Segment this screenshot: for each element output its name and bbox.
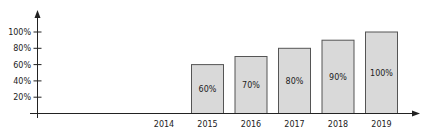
bars-group [192,32,398,114]
bar-value-label: 60% [199,85,217,94]
x-tick-label: 2015 [197,120,217,129]
y-tick-label: 60% [13,61,31,70]
bar-value-label: 80% [286,77,304,86]
bar-chart: 60%70%80%90%100% 20142015201620172018201… [0,0,431,133]
x-tick-label: 2018 [328,120,348,129]
x-tick-label: 2017 [284,120,304,129]
y-axis-ticks: 20%40%60%80%100% [8,28,41,102]
x-tick-label: 2019 [371,120,391,129]
y-tick-label: 40% [13,77,31,86]
x-tick-label: 2016 [241,120,261,129]
y-tick-label: 20% [13,93,31,102]
x-tick-label: 2014 [154,120,174,129]
x-axis-tick-labels: 201420152016201720182019 [154,120,392,129]
bar-value-label: 70% [242,81,260,90]
y-tick-label: 100% [8,28,31,37]
bar-value-label: 90% [329,73,347,82]
x-axis-arrow-icon [412,111,420,117]
y-tick-label: 80% [13,44,31,53]
y-axis-arrow-icon [35,10,41,18]
bar-value-label: 100% [370,69,393,78]
